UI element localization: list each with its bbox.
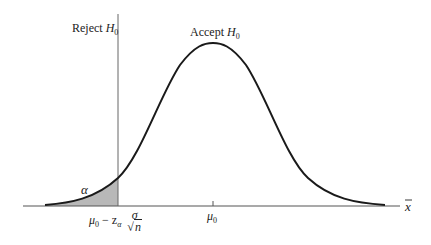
alpha-label: α xyxy=(81,183,88,196)
x-axis-label: x xyxy=(405,200,411,213)
critical-value-label: μ0 − zα σ √n xyxy=(89,209,142,234)
mean-label: μ0 xyxy=(207,210,217,225)
normal-curve xyxy=(45,43,385,205)
sigma-over-sqrt-n: σ √n xyxy=(127,209,142,234)
reject-h0-label: Reject H0 xyxy=(72,22,118,37)
accept-h0-label: Accept H0 xyxy=(190,26,240,41)
